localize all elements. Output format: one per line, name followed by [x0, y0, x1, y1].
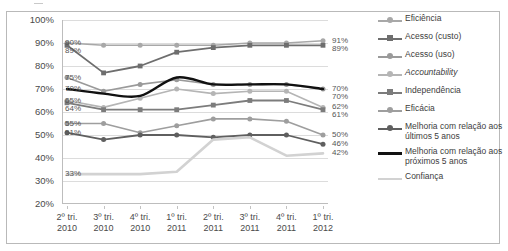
x-axis-tick: [177, 206, 178, 209]
x-axis-tick: [67, 206, 68, 209]
legend-item[interactable]: Eficiência: [378, 14, 504, 26]
data-point-marker: [321, 43, 326, 48]
data-point-marker: [101, 121, 106, 126]
data-point-marker: [284, 119, 289, 124]
series-value-label: 89%: [332, 45, 348, 54]
legend-item[interactable]: Accountability: [378, 68, 504, 80]
data-point-marker: [321, 133, 326, 138]
x-axis-tick: [250, 206, 251, 209]
data-point-marker: [138, 107, 143, 112]
series-value-label: 33%: [65, 170, 81, 179]
data-point-marker: [211, 103, 216, 108]
x-axis-tick: [213, 206, 214, 209]
data-point-marker: [138, 82, 143, 87]
legend-item[interactable]: Independência: [378, 86, 504, 98]
series-line: [67, 45, 323, 73]
data-point-marker: [321, 107, 326, 112]
legend-label: Melhoria com relação aos últimos 5 anos: [402, 122, 504, 141]
data-point-marker: [101, 71, 106, 76]
series-value-label: 75%: [65, 74, 81, 83]
y-axis-tick-label: 80%: [35, 61, 54, 71]
legend-item[interactable]: Acesso (custo): [378, 32, 504, 44]
legend-marker-icon: [378, 51, 402, 62]
data-point-marker: [211, 116, 216, 121]
data-point-marker: [174, 107, 179, 112]
x-axis-tick-label: 1º tri.2012: [300, 212, 346, 234]
data-point-marker: [284, 89, 289, 94]
series-line: [67, 137, 323, 174]
y-axis-tick-label: 100%: [30, 15, 54, 25]
data-point-marker: [174, 87, 179, 92]
y-axis-tick-label: 30%: [35, 176, 54, 186]
data-point-marker: [284, 133, 289, 138]
series-8: [67, 137, 323, 174]
x-axis-tick: [140, 206, 141, 209]
chart-figure: 100%90%80%70%60%50%40%30%20% 2º tri.2010…: [0, 0, 508, 251]
legend-item[interactable]: Acesso (uso): [378, 50, 504, 62]
data-point-marker: [284, 98, 289, 103]
y-axis-tick-label: 60%: [35, 107, 54, 117]
data-point-marker: [211, 91, 216, 96]
series-value-label: 70%: [65, 85, 81, 94]
legend-label: Independência: [402, 86, 461, 96]
series-6: [65, 130, 326, 147]
y-axis-tick-label: 70%: [35, 84, 54, 94]
legend-marker-icon: [378, 173, 402, 184]
series-line: [67, 77, 323, 97]
legend-item[interactable]: Melhoria com relação aos últimos 5 anos: [378, 122, 504, 141]
legend-marker-icon: [378, 148, 402, 159]
series-layer: [62, 20, 328, 204]
series-value-label: 70%: [332, 93, 348, 102]
data-point-marker: [247, 116, 252, 121]
data-point-marker: [101, 107, 106, 112]
series-value-label: 61%: [332, 111, 348, 120]
legend-label: Acesso (custo): [402, 32, 461, 42]
series-7: [67, 77, 323, 97]
data-point-marker: [247, 43, 252, 48]
legend-label: Accountability: [402, 68, 457, 78]
legend-item[interactable]: Eficácia: [378, 104, 504, 116]
legend-label: Confiança: [402, 172, 443, 182]
y-axis-tick-label: 20%: [35, 199, 54, 209]
data-point-marker: [101, 137, 106, 142]
y-axis-tick-label: 50%: [35, 130, 54, 140]
legend-label: Melhoria com relação aos próximos 5 anos: [402, 147, 504, 166]
x-axis-tick: [286, 206, 287, 209]
series-value-label: 51%: [65, 129, 81, 138]
x-axis: 2º tri.20103º tri.20104º tri.20101º tri.…: [62, 206, 328, 246]
data-point-marker: [174, 50, 179, 55]
data-point-marker: [321, 142, 326, 147]
data-point-marker: [174, 123, 179, 128]
series-value-label: 89%: [65, 47, 81, 56]
data-point-marker: [174, 43, 179, 48]
legend-marker-icon: [378, 33, 402, 44]
x-label-quarter: 1º tri.: [300, 212, 346, 223]
y-axis-tick-label: 90%: [35, 38, 54, 48]
series-value-label: 55%: [65, 120, 81, 129]
legend-item[interactable]: Confiança: [378, 172, 504, 184]
y-axis-tick-label: 40%: [35, 153, 54, 163]
data-point-marker: [247, 98, 252, 103]
legend-marker-icon: [378, 87, 402, 98]
x-label-year: 2012: [300, 223, 346, 234]
plot-area: [62, 20, 328, 204]
series-value-label: 64%: [65, 105, 81, 114]
chart-legend: EficiênciaAcesso (custo)Acesso (uso)Acco…: [378, 14, 504, 190]
data-point-marker: [138, 133, 143, 138]
data-point-marker: [174, 133, 179, 138]
x-axis-tick: [104, 206, 105, 209]
legend-label: Eficácia: [402, 104, 435, 114]
data-point-marker: [138, 43, 143, 48]
legend-marker-icon: [378, 105, 402, 116]
legend-item[interactable]: Melhoria com relação aos próximos 5 anos: [378, 147, 504, 166]
legend-marker-icon: [378, 123, 402, 134]
legend-marker-icon: [378, 15, 402, 26]
data-point-marker: [284, 43, 289, 48]
legend-label: Eficiência: [402, 14, 441, 24]
data-point-marker: [321, 38, 326, 43]
x-axis-tick: [323, 206, 324, 209]
data-point-marker: [101, 43, 106, 48]
legend-marker-icon: [378, 69, 402, 80]
series-value-label: 42%: [332, 149, 348, 158]
data-point-marker: [247, 89, 252, 94]
